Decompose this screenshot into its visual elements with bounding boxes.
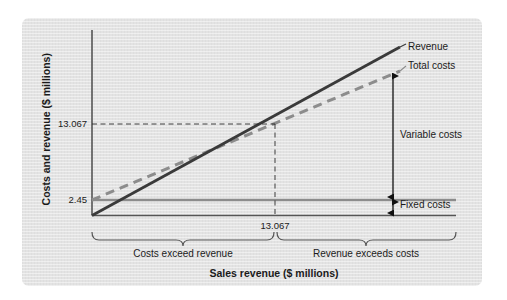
- annotation-label-revenue-exceeds-costs: Revenue exceeds costs: [276, 249, 456, 259]
- leader-total-costs: [400, 66, 406, 71]
- x-axis-title: Sales revenue ($ millions): [92, 268, 456, 279]
- brace-costs-exceed-revenue: [92, 232, 274, 246]
- y-axis-title: Costs and revenue ($ millions): [41, 44, 52, 214]
- annotation-label-variable-costs: Variable costs: [400, 130, 462, 140]
- series-revenue-line: [92, 47, 400, 216]
- series-total-costs-line: [92, 71, 400, 200]
- series-label-total-costs: Total costs: [408, 61, 455, 71]
- annotation-label-fixed-costs: Fixed costs: [400, 200, 451, 210]
- chart-figure: Costs and revenue ($ millions) Sales rev…: [0, 0, 507, 300]
- y-tick-label-breakeven: 13.067: [34, 119, 87, 129]
- annotation-label-costs-exceed-revenue: Costs exceed revenue: [92, 249, 274, 259]
- y-tick-label-fixed-costs: 2.45: [44, 195, 87, 205]
- x-tick-label-breakeven: 13.067: [246, 221, 304, 231]
- brace-revenue-exceeds-costs: [277, 232, 456, 246]
- leader-revenue: [400, 44, 406, 47]
- series-label-revenue: Revenue: [408, 42, 448, 52]
